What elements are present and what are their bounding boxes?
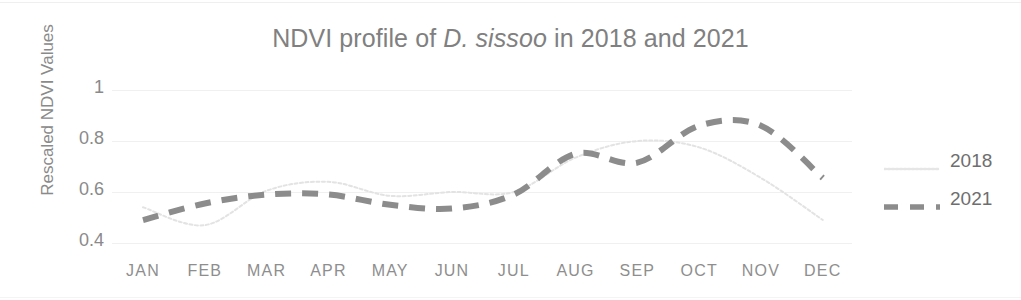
- chart-figure: NDVI profile of D. sissoo in 2018 and 20…: [0, 0, 1021, 300]
- chart-legend: 2018 2021: [884, 150, 1014, 226]
- legend-item-2021[interactable]: 2021: [884, 188, 1014, 226]
- plot-area: 0.40.60.81 JANFEBMARAPRMAYJUNJULAUGSEPOC…: [0, 0, 1021, 300]
- series-layer: [0, 0, 1021, 300]
- legend-label-2018: 2018: [950, 150, 992, 172]
- legend-swatch-2021: [884, 197, 940, 205]
- series-line-2021: [143, 120, 823, 220]
- legend-label-2021: 2021: [950, 188, 992, 210]
- series-line-2018: [143, 140, 823, 225]
- legend-item-2018[interactable]: 2018: [884, 150, 1014, 188]
- legend-swatch-2018: [884, 159, 940, 167]
